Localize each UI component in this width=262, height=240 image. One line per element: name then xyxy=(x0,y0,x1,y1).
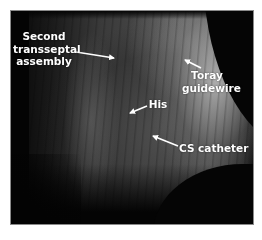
label-line: His xyxy=(147,98,169,111)
label-second-transseptal-assembly: Second transseptal assembly xyxy=(13,30,75,68)
collimator-bottom-left xyxy=(11,154,81,224)
label-line: Toray xyxy=(182,69,232,82)
label-line: CS catheter xyxy=(179,142,243,155)
label-line: guidewire xyxy=(182,82,232,95)
label-line: transseptal xyxy=(13,43,75,56)
label-toray-guidewire: Toray guidewire xyxy=(182,69,232,94)
label-line: assembly xyxy=(13,55,75,68)
label-cs-catheter: CS catheter xyxy=(179,142,243,155)
label-line: Second xyxy=(13,30,75,43)
label-his: His xyxy=(147,98,169,111)
